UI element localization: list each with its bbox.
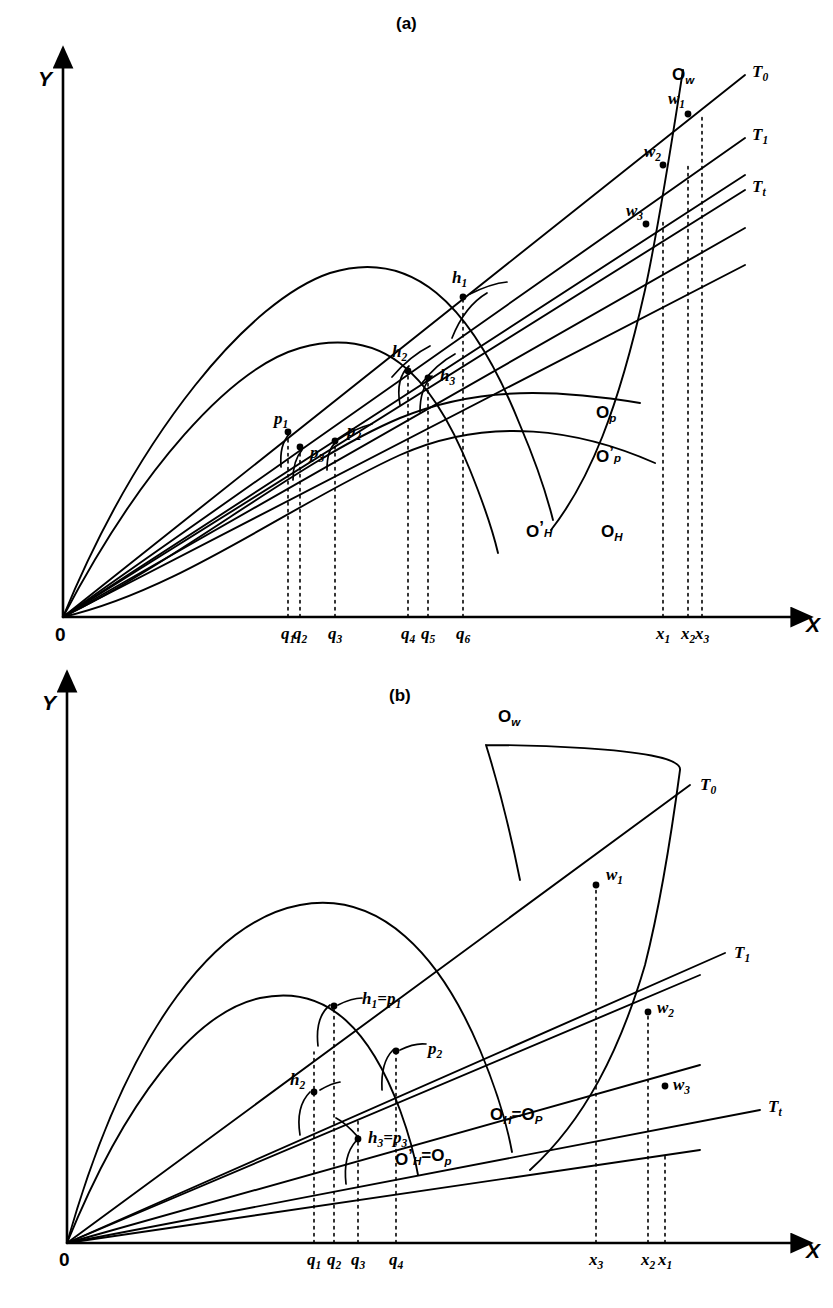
y-axis-label: Y [38, 67, 54, 90]
point-marker-w2 [645, 1009, 652, 1016]
point-label-h2: h2 [290, 1070, 305, 1091]
point-marker-h1_eq_p1 [331, 1003, 338, 1010]
panel-a-title: (a) [396, 14, 417, 34]
point-marker-w1 [685, 111, 692, 118]
tangent-line-Tt [67, 1110, 760, 1243]
tangent-label-T0: T0 [752, 62, 768, 83]
panel-a-tangent-lines [63, 75, 745, 617]
point-marker-p2 [332, 438, 339, 445]
tangent-label-T0: T0 [700, 775, 716, 796]
point-marker-h2 [311, 1089, 318, 1096]
ray-line-ray-b2 [67, 1065, 700, 1243]
ptr-p2b [400, 1044, 426, 1050]
arc-h2b [299, 1092, 310, 1135]
x-tick-label-x3: x3 [694, 624, 710, 645]
tangent-line-T0 [67, 785, 690, 1243]
y-axis-label: Y [42, 691, 58, 714]
x-tick-label-x3: x3 [588, 1250, 604, 1271]
panel-b-rays [67, 975, 700, 1243]
point-marker-h3 [425, 375, 432, 382]
panel-a-leader-lines [336, 282, 507, 441]
curve-label-O_w: Ow [498, 707, 521, 728]
point-marker-w3 [643, 221, 650, 228]
x-tick-label-q6: q6 [456, 624, 471, 645]
x-tick-label-x2: x2 [680, 624, 696, 645]
point-label-p1: p1 [272, 409, 288, 430]
point-marker-p2 [393, 1048, 400, 1055]
point-marker-h1 [460, 294, 467, 301]
x-tick-label-x1: x1 [655, 624, 670, 645]
point-label-w2: w2 [644, 142, 661, 163]
panel-a: XY0OHO’HOpO’pOwT0T1Ttq1q2q3q4q5q6x1x2x3h… [0, 0, 833, 660]
x-tick-label-q4: q4 [401, 624, 416, 645]
point-label-p2: p2 [426, 1039, 443, 1060]
panel-b-svg: XY0OH=OPO’H=OpOwT0T1Ttq1q2q3q4x3x2x1h1=p… [0, 660, 833, 1308]
tangent-label-T1: T1 [734, 943, 750, 964]
point-label-h1_eq_p1: h1=p1 [362, 989, 401, 1010]
curve-O_Hprime_eq_O_pprime [67, 995, 418, 1243]
ray-line-ray-b1 [67, 975, 700, 1243]
arc-h1b [318, 1005, 331, 1046]
panel-a-curves [63, 70, 683, 617]
x-axis-label: X [805, 1239, 822, 1262]
point-label-w2: w2 [657, 998, 674, 1019]
x-axis-label: X [805, 613, 822, 636]
ray-line-ray-p2 [63, 228, 745, 617]
point-label-w3: w3 [673, 1075, 690, 1096]
origin-label: 0 [59, 1249, 70, 1270]
tangent-label-Tt: Tt [752, 177, 766, 198]
ray-line-ray-p1 [63, 175, 745, 617]
x-tick-label-q2: q2 [293, 624, 308, 645]
x-tick-label-q2: q2 [327, 1250, 342, 1271]
tangent-label-T1: T1 [752, 125, 768, 146]
point-label-h3: h3 [440, 366, 455, 387]
panel-b-title: (b) [389, 686, 411, 706]
ray-line-ray-b3 [67, 1150, 700, 1243]
panel-a-axes [63, 66, 793, 617]
tangent-label-Tt: Tt [768, 1097, 782, 1118]
panel-a-point-markers [285, 111, 692, 451]
point-label-p3: p3 [308, 443, 325, 464]
curve-label-O_Hprime: O’H [526, 518, 553, 541]
panel-a-rays [63, 175, 745, 617]
curve-label-O_Hprime_eq_O_pprime: O’H=Op [395, 1146, 451, 1169]
panel-b-curves [67, 745, 680, 1243]
x-tick-label-q3: q3 [351, 1250, 366, 1271]
point-label-h1: h1 [452, 268, 467, 289]
panel-b: XY0OH=OPO’H=OpOwT0T1Ttq1q2q3q4x3x2x1h1=p… [0, 660, 833, 1308]
panel-a-svg: XY0OHO’HOpO’pOwT0T1Ttq1q2q3q4q5q6x1x2x3h… [0, 0, 833, 660]
point-marker-h2 [405, 368, 412, 375]
curve-label-O_pprime: O’p [596, 443, 621, 466]
point-label-h3_eq_p3: h3=p3 [368, 1128, 407, 1149]
x-tick-label-q5: q5 [421, 624, 436, 645]
point-marker-w3 [662, 1083, 669, 1090]
curve-label-O_w: Ow [672, 65, 695, 86]
curve-O_pprime [63, 431, 655, 617]
ptr-h2b [320, 1082, 340, 1090]
x-tick-label-x1: x1 [657, 1250, 672, 1271]
point-marker-p3 [297, 444, 304, 451]
x-tick-label-q4: q4 [389, 1250, 404, 1271]
x-tick-label-q3: q3 [328, 624, 343, 645]
ptr-h1b [338, 998, 362, 1005]
point-label-w3: w3 [626, 201, 643, 222]
origin-label: 0 [55, 624, 66, 645]
tangent-line-Tt [63, 190, 745, 617]
curve-label-O_H_eq_O_P: OH=OP [490, 1105, 543, 1126]
point-marker-w1 [593, 882, 600, 889]
panel-b-labels: XY0OH=OPO’H=OpOwT0T1Ttq1q2q3q4x3x2x1h1=p… [42, 691, 822, 1271]
tangent-line-T0 [63, 75, 745, 617]
point-marker-h3_eq_p3 [355, 1136, 362, 1143]
curve-label-O_H: OH [601, 522, 623, 543]
x-tick-label-x2: x2 [640, 1250, 656, 1271]
figure-root: XY0OHO’HOpO’pOwT0T1Ttq1q2q3q4q5q6x1x2x3h… [0, 0, 833, 1308]
ray-line-ray-p3 [63, 265, 745, 617]
arc-p2b [382, 1050, 393, 1090]
point-label-w1: w1 [606, 865, 623, 886]
x-tick-label-q1: q1 [307, 1250, 321, 1271]
point-label-w1: w1 [668, 89, 685, 110]
